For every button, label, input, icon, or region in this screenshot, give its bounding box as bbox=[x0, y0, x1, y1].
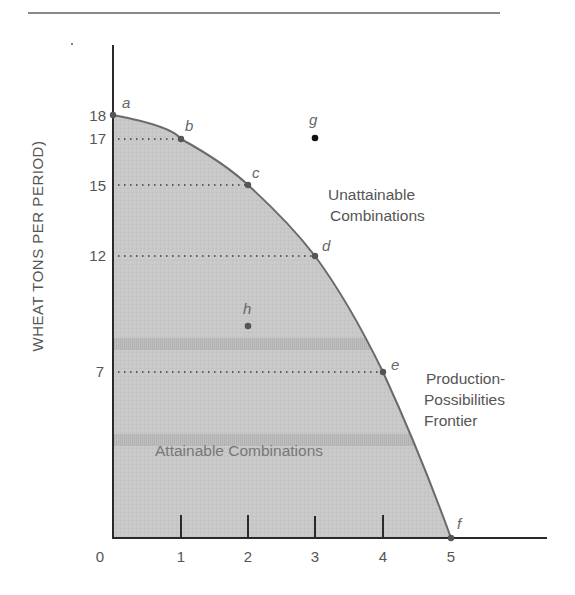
production-possibilities-chart: 0 1 2 3 4 5 18 17 15 12 7 WHEAT TONS PER… bbox=[0, 0, 575, 595]
y-tick-7: 7 bbox=[96, 363, 104, 380]
label-e: e bbox=[391, 356, 399, 373]
y-tick-15: 15 bbox=[89, 177, 106, 194]
ppf-label-line-1: Production- bbox=[426, 370, 505, 387]
point-g bbox=[312, 135, 319, 142]
x-tick-labels: 0 1 2 3 4 5 bbox=[96, 548, 455, 565]
label-h: h bbox=[243, 300, 251, 317]
label-b: b bbox=[185, 117, 193, 134]
x-tick-5: 5 bbox=[447, 548, 455, 565]
y-tick-12: 12 bbox=[89, 247, 106, 264]
x-tick-2: 2 bbox=[244, 548, 252, 565]
point-h bbox=[245, 323, 252, 330]
y-axis-title: WHEAT TONS PER PERIOD) bbox=[29, 141, 46, 352]
x-tick-4: 4 bbox=[379, 548, 387, 565]
unattainable-line-1: Unattainable bbox=[328, 186, 415, 203]
x-tick-3: 3 bbox=[311, 548, 319, 565]
ppf-label-line-2: Possibilities bbox=[424, 391, 505, 408]
unattainable-line-2: Combinations bbox=[330, 207, 425, 224]
attainable-region bbox=[113, 115, 451, 538]
y-tick-17: 17 bbox=[89, 130, 106, 147]
label-c: c bbox=[252, 164, 260, 181]
point-a bbox=[110, 112, 116, 118]
attainable-label: Attainable Combinations bbox=[155, 442, 323, 459]
x-tick-0: 0 bbox=[96, 548, 104, 565]
x-tick-1: 1 bbox=[177, 548, 185, 565]
label-g: g bbox=[309, 111, 318, 128]
label-a: a bbox=[122, 94, 130, 111]
point-c bbox=[245, 182, 251, 188]
label-d: d bbox=[322, 237, 331, 254]
y-tick-labels: 18 17 15 12 7 bbox=[89, 107, 106, 380]
label-f: f bbox=[457, 515, 463, 532]
stray-mark bbox=[71, 43, 73, 45]
point-e bbox=[380, 369, 386, 375]
point-f bbox=[448, 535, 454, 541]
ppf-label-line-3: Frontier bbox=[424, 412, 477, 429]
point-b bbox=[178, 136, 184, 142]
y-tick-18: 18 bbox=[89, 107, 106, 124]
point-d bbox=[312, 253, 318, 259]
